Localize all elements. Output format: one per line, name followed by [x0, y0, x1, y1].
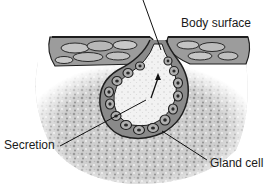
surface-epithelium-right: [167, 37, 249, 64]
body-surface-label: Body surface: [181, 17, 251, 29]
gland-cell-label: Gland cell: [210, 157, 263, 169]
secretion-label: Secretion: [4, 139, 55, 151]
gland-diagram: Body surface Secretion Gland cell: [0, 0, 264, 186]
